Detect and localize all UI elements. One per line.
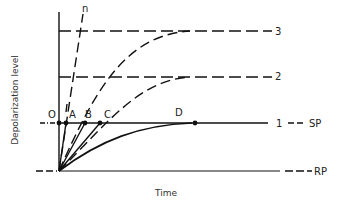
sp-label: SP <box>309 118 321 129</box>
curve-to-level-3 <box>59 31 190 171</box>
rp-label: RP <box>314 166 327 177</box>
curve-n-label: n <box>82 3 88 14</box>
x-axis-label: Time <box>155 188 177 198</box>
point-a-label: A <box>69 109 76 120</box>
y-axis-label-box: Depolarization level <box>5 40 25 160</box>
level-2-label: 2 <box>275 71 281 82</box>
point-c-label: C <box>104 109 111 120</box>
depolarization-diagram: O A B C D n 3 2 1 SP RP Depolarization l… <box>0 0 348 208</box>
point-b-label: B <box>85 109 92 120</box>
y-axis-label: Depolarization level <box>10 55 20 145</box>
level-1-label: 1 <box>276 118 282 129</box>
point-c <box>98 121 103 126</box>
level-3-label: 3 <box>275 26 281 37</box>
point-o-label: O <box>48 109 56 120</box>
a-tick <box>66 104 67 112</box>
point-b <box>83 121 88 126</box>
point-o <box>57 121 62 126</box>
point-d <box>193 121 198 126</box>
point-d-label: D <box>175 107 183 118</box>
point-a <box>64 121 69 126</box>
